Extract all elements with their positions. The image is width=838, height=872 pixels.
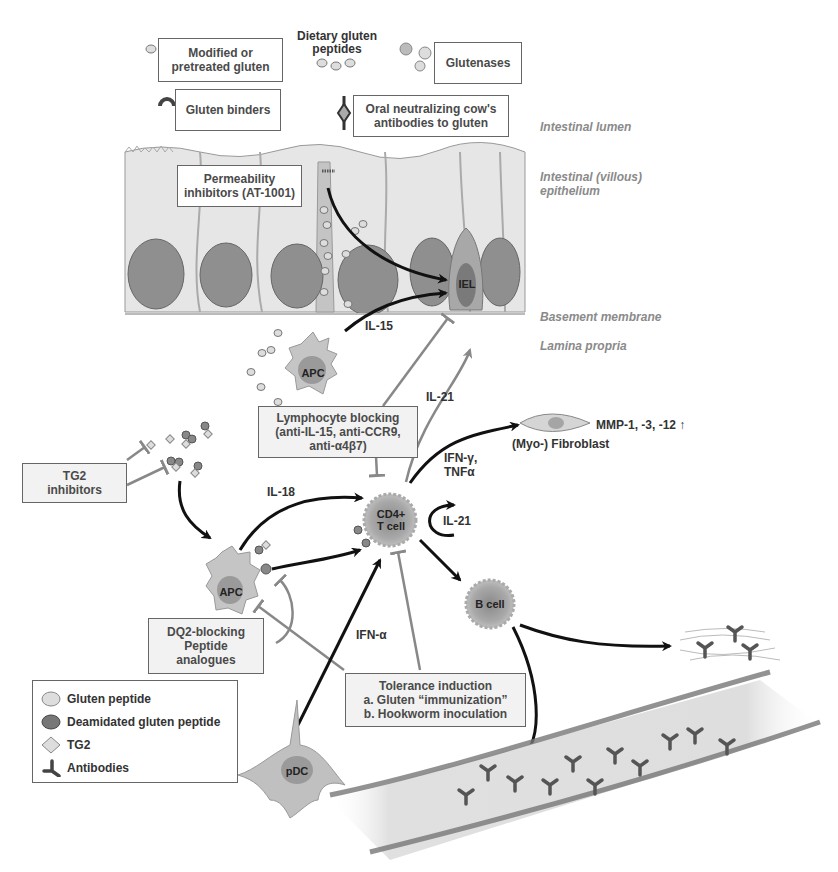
deamidated-peptide-icon bbox=[41, 714, 61, 730]
tg2-peptide-cluster bbox=[147, 422, 212, 477]
il21-up-label: IL-21 bbox=[426, 390, 454, 404]
il21-loop-label: IL-21 bbox=[443, 514, 471, 528]
legend: Gluten peptide Deamidated gluten peptide… bbox=[32, 680, 238, 783]
zone-intestinal-lumen: Intestinal lumen bbox=[540, 120, 631, 134]
fibroblast-label: (Myo-) Fibroblast bbox=[512, 437, 609, 451]
tg2-icon bbox=[41, 736, 61, 754]
il18-label: IL-18 bbox=[267, 485, 295, 499]
b-cell-label: B cell bbox=[470, 598, 510, 610]
legend-item: TG2 bbox=[41, 733, 229, 756]
dietary-peptide-icon bbox=[317, 59, 327, 67]
pdc-label: pDC bbox=[282, 765, 312, 777]
legend-item: Antibodies bbox=[41, 756, 229, 779]
matrix-antibodies bbox=[680, 627, 780, 660]
apc-top-label: APC bbox=[298, 367, 328, 379]
iel-label: IEL bbox=[452, 278, 482, 290]
gluten-binder-icon bbox=[160, 99, 174, 106]
lymphocyte-blocking-box: Lymphocyte blocking (anti-IL-15, anti-CC… bbox=[258, 406, 418, 458]
dietary-gluten-label: Dietary gluten peptides bbox=[297, 30, 377, 56]
zone-epithelium-line2: epithelium bbox=[540, 184, 600, 198]
zone-basement-membrane: Basement membrane bbox=[540, 310, 661, 324]
tolerance-induction-box: Tolerance induction a. Gluten “immunizat… bbox=[345, 673, 526, 727]
mmp-label: MMP-1, -3, -12 ↑ bbox=[596, 418, 685, 432]
legend-item: Gluten peptide bbox=[41, 687, 229, 710]
tg2-inhibitors-box: TG2 inhibitors bbox=[22, 463, 127, 503]
diagram: Intestinal lumen Intestinal (villous) ep… bbox=[0, 0, 838, 872]
legend-item: Deamidated gluten peptide bbox=[41, 710, 229, 733]
glutenase-icon bbox=[400, 43, 431, 71]
antibody-icon bbox=[41, 759, 61, 777]
glutenases-box: Glutenases bbox=[434, 42, 522, 84]
zone-epithelium-line1: Intestinal (villous) bbox=[540, 170, 642, 184]
apc-mid-label: APC bbox=[216, 586, 246, 598]
neutralizing-antibody-icon bbox=[338, 96, 350, 130]
ifn-gamma-label: IFN-γ, TNFα bbox=[444, 451, 477, 479]
cd4-label: CD4+ T cell bbox=[370, 508, 412, 532]
modified-gluten-box: Modified or pretreated gluten bbox=[158, 38, 283, 82]
gluten-binders-box: Gluten binders bbox=[175, 89, 281, 131]
oral-antibodies-box: Oral neutralizing cow's antibodies to gl… bbox=[353, 95, 509, 137]
modified-gluten-icon bbox=[146, 45, 156, 53]
ifn-alpha-label: IFN-α bbox=[356, 628, 387, 642]
dq2-blocking-box: DQ2-blocking Peptide analogues bbox=[148, 618, 264, 674]
zone-lamina-propria: Lamina propria bbox=[540, 339, 627, 353]
gluten-peptide-icon bbox=[41, 691, 61, 707]
il15-label: IL-15 bbox=[365, 319, 393, 333]
permeability-inhibitors-box: Permeability inhibitors (AT-1001) bbox=[177, 165, 302, 207]
